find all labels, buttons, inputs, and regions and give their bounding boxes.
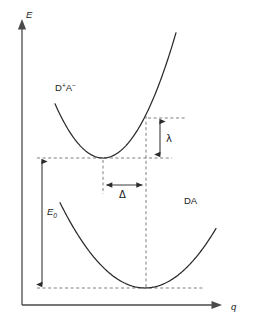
driving-energy-label-subscript: 0 xyxy=(53,212,57,219)
potential-curves-group xyxy=(55,33,216,288)
energy-diagram-figure: E q D+A− DA λ xyxy=(0,0,253,325)
charge-separated-label-minus: − xyxy=(72,82,76,89)
axes-group: E q xyxy=(18,9,237,312)
energy-axis-arrowhead xyxy=(18,19,26,30)
driving-energy-label: E0 xyxy=(47,206,57,219)
reaction-coordinate-axis-arrowhead xyxy=(212,301,223,309)
energy-axis-label: E xyxy=(26,9,33,20)
charge-separated-state-label: D+A− xyxy=(55,82,76,93)
curve-labels-group: D+A− DA xyxy=(55,82,198,206)
reaction-coordinate-axis-label: q xyxy=(231,301,237,312)
measurement-arrows-group: λ Δ E0 xyxy=(42,122,172,285)
diagram-canvas: E q D+A− DA λ xyxy=(0,0,253,325)
donor-acceptor-charge-separated-curve-body xyxy=(55,33,176,158)
guide-lines-group xyxy=(37,116,205,288)
donor-acceptor-neutral-curve xyxy=(60,203,216,288)
neutral-state-label: DA xyxy=(184,195,198,206)
reorganization-energy-label: λ xyxy=(166,133,172,144)
coordinate-displacement-label: Δ xyxy=(119,189,126,200)
